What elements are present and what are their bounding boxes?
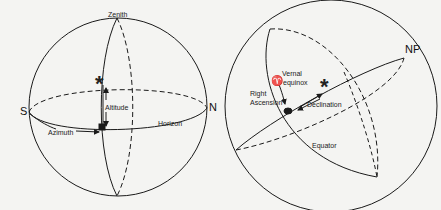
aries-icon: ♈: [271, 76, 283, 86]
equinox-label: equinox: [283, 79, 308, 86]
altitude-label: Altitude: [105, 104, 128, 111]
declination-label: Declination: [307, 101, 342, 108]
celestial-coordinates-figure: Zenith S N Altitude Azimuth Horizon * NP…: [0, 0, 441, 210]
ascension-label: Ascension: [250, 99, 282, 106]
star-projection-marker: [99, 124, 105, 130]
star-icon: *: [95, 73, 104, 95]
right-label: Right: [250, 90, 266, 97]
horizon-label: Horizon: [158, 120, 182, 127]
north-pole-label: NP: [405, 44, 420, 55]
star-icon-right: *: [320, 76, 329, 98]
north-label: N: [209, 102, 217, 113]
south-label: S: [20, 106, 27, 117]
vernal-label: Vernal: [282, 70, 302, 77]
zenith-label: Zenith: [108, 11, 127, 18]
meridian-dashed: [344, 72, 377, 177]
star-projection-marker-right: [284, 108, 292, 114]
equator-label: Equator: [312, 142, 337, 149]
azimuth-label: Azimuth: [48, 129, 73, 136]
azimuth-arrow: [76, 131, 99, 132]
diagram-graphics: [0, 0, 441, 210]
